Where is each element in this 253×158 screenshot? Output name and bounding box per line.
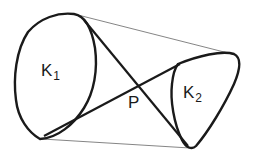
convex-sets-diagram: [0, 0, 253, 158]
convex-body-k2: [171, 53, 239, 148]
label-k2-main: K: [183, 83, 194, 102]
label-k1-main: K: [41, 61, 52, 80]
label-p: P: [128, 94, 139, 111]
label-k1: K1: [41, 62, 60, 79]
outer-tangent-top: [78, 15, 232, 54]
outer-tangent-bottom: [42, 139, 190, 148]
label-k1-sub: 1: [53, 69, 60, 83]
label-k2-sub: 2: [195, 91, 202, 105]
inner-tangent-2: [44, 64, 180, 136]
label-k2: K2: [183, 84, 202, 101]
